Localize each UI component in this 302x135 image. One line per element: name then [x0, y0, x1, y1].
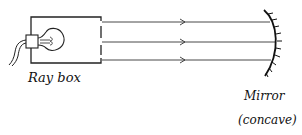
ray-diagram: Ray box Mirror (concave) — [0, 0, 302, 135]
ray-box-label: Ray box — [27, 70, 81, 85]
power-cable-icon — [9, 40, 26, 66]
light-rays — [102, 19, 276, 63]
mirror-type-label: (concave) — [238, 113, 297, 127]
mirror-label: Mirror — [243, 89, 286, 103]
light-bulb-icon — [26, 28, 64, 50]
concave-mirror-icon — [264, 10, 282, 77]
